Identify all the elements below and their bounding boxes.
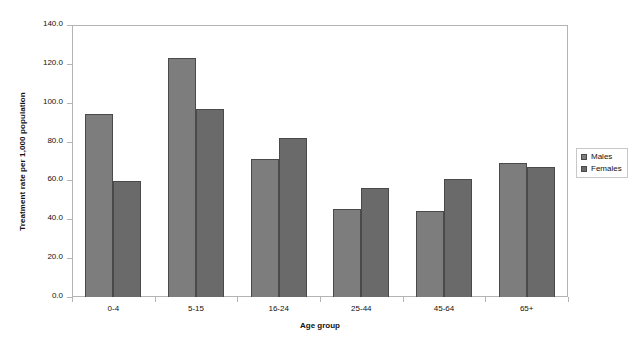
legend-swatch-icon: [581, 154, 587, 160]
bar-females-5-15[interactable]: [196, 109, 224, 297]
legend-swatch-icon: [581, 166, 587, 172]
bar-group: [237, 25, 320, 297]
x-axis-tick-label: 45-64: [403, 304, 486, 313]
y-axis-tick-label: 140.0: [43, 19, 63, 28]
x-axis-tick-label: 0-4: [72, 304, 155, 313]
y-axis-tick-label: 40.0: [47, 213, 63, 222]
legend-label: Females: [591, 165, 622, 173]
bar-males-16-24[interactable]: [251, 159, 279, 297]
y-axis-tick-label: 20.0: [47, 252, 63, 261]
bar-females-16-24[interactable]: [279, 138, 307, 297]
x-axis-tick-marks: [72, 297, 568, 302]
x-axis-tick-mark: [155, 297, 156, 302]
bar-group: [72, 25, 155, 297]
bar-group: [403, 25, 486, 297]
x-axis-tick-mark: [403, 297, 404, 302]
y-axis-tick-label: 0.0: [52, 291, 63, 300]
bar-males-0-4[interactable]: [85, 114, 113, 297]
bar-females-45-64[interactable]: [444, 179, 472, 297]
x-axis-tick-label: 65+: [485, 304, 568, 313]
bar-females-65+[interactable]: [527, 167, 555, 297]
bar-males-5-15[interactable]: [168, 58, 196, 297]
y-axis-tick-label: 120.0: [43, 58, 63, 67]
bar-groups: [72, 25, 568, 297]
bar-group: [320, 25, 403, 297]
bar-males-25-44[interactable]: [333, 209, 361, 297]
y-axis-tick-labels: 0.020.040.060.080.0100.0120.0140.0: [0, 25, 72, 297]
x-axis-tick-mark: [237, 297, 238, 302]
legend-label: Males: [591, 153, 612, 161]
x-axis-title: Age group: [72, 321, 568, 330]
bar-males-45-64[interactable]: [416, 211, 444, 297]
x-axis-tick-label: 5-15: [155, 304, 238, 313]
bar-group: [485, 25, 568, 297]
bar-males-65+[interactable]: [499, 163, 527, 297]
x-axis-tick-mark: [320, 297, 321, 302]
bar-females-25-44[interactable]: [361, 188, 389, 297]
x-axis-tick-mark: [568, 297, 569, 302]
x-axis-tick-mark: [72, 297, 73, 302]
bar-females-0-4[interactable]: [113, 181, 141, 297]
legend: MalesFemales: [576, 148, 628, 178]
legend-item-males[interactable]: Males: [581, 153, 622, 161]
x-axis-tick-mark: [485, 297, 486, 302]
x-axis-tick-label: 25-44: [320, 304, 403, 313]
y-axis-tick-label: 60.0: [47, 174, 63, 183]
y-axis-tick-label: 80.0: [47, 136, 63, 145]
legend-item-females[interactable]: Females: [581, 165, 622, 173]
x-axis-tick-label: 16-24: [237, 304, 320, 313]
y-axis-tick-label: 100.0: [43, 97, 63, 106]
bar-chart: Treatment rate per 1,000 population 0.02…: [0, 0, 642, 350]
x-axis-tick-labels: 0-45-1516-2425-4445-6465+: [72, 304, 568, 313]
bar-group: [155, 25, 238, 297]
